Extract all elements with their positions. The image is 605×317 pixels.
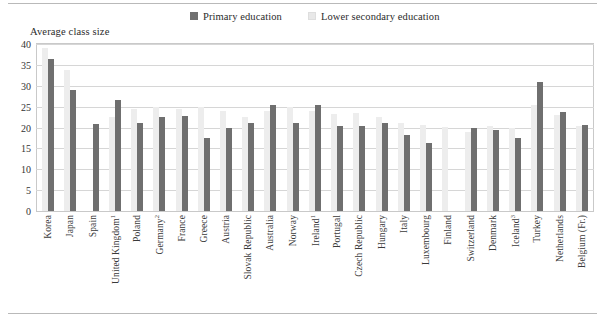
y-tick-40: 40 (21, 39, 31, 50)
bar-primary (48, 59, 54, 211)
bar-group (282, 44, 304, 211)
legend-swatch-lower-icon (308, 12, 316, 20)
bar-primary (182, 116, 188, 211)
bar-primary (270, 105, 276, 211)
x-label-cell: Poland (126, 213, 148, 313)
x-label-cell: Belgium (Fr.) (571, 213, 593, 313)
x-axis-label: Netherlands (555, 215, 565, 262)
bar-group (393, 44, 415, 211)
x-label-cell: Austria (215, 213, 237, 313)
bar-primary (248, 123, 254, 212)
x-axis-label: Austria (221, 215, 231, 244)
x-axis-label: France (177, 215, 187, 241)
x-label-cell: Denmark (482, 213, 504, 313)
bar-group (348, 44, 370, 211)
bar-group (259, 44, 281, 211)
bar-group (37, 44, 59, 211)
bar-primary (337, 126, 343, 211)
x-label-cell: Japan (59, 213, 81, 313)
bar-primary (493, 130, 499, 211)
bar-lower-secondary (442, 127, 448, 211)
bar-primary (293, 123, 299, 211)
x-axis-category-labels: KoreaJapanSpainUnited Kingdom1PolandGerm… (37, 213, 593, 313)
x-label-cell: Hungary (371, 213, 393, 313)
y-tick-10: 10 (21, 164, 31, 175)
x-axis-label: Turkey (532, 215, 542, 243)
x-label-cell: Spain (81, 213, 103, 313)
legend-label-lower: Lower secondary education (321, 11, 440, 22)
y-tick-5: 5 (26, 185, 31, 196)
bar-primary (382, 123, 388, 211)
x-label-cell: Czech Republic (348, 213, 370, 313)
legend-item-primary-education: Primary education (190, 11, 282, 22)
top-divider (8, 3, 597, 4)
x-axis-label: Luxembourg (421, 215, 431, 265)
bottom-divider (8, 313, 597, 314)
bar-group (326, 44, 348, 211)
bar-group (504, 44, 526, 211)
y-tick-30: 30 (21, 80, 31, 91)
bar-primary (204, 138, 210, 211)
bar-group (104, 44, 126, 211)
x-axis-label: Belgium (Fr.) (577, 215, 587, 268)
bar-group (304, 44, 326, 211)
bar-groups (37, 44, 593, 211)
bar-group (215, 44, 237, 211)
y-tick-25: 25 (21, 101, 31, 112)
footnote-marker: 1 (109, 215, 116, 218)
legend-item-lower-secondary-education: Lower secondary education (308, 11, 440, 22)
bar-group (59, 44, 81, 211)
bar-group (237, 44, 259, 211)
legend-label-primary: Primary education (203, 11, 282, 22)
bar-group (81, 44, 103, 211)
y-axis-tick-labels: 0510152025303540 (0, 43, 34, 212)
bar-primary (560, 112, 566, 211)
chart-legend: Primary education Lower secondary educat… (190, 8, 490, 24)
bar-group (371, 44, 393, 211)
x-axis-label: Poland (132, 215, 142, 242)
x-label-cell: Luxembourg (415, 213, 437, 313)
x-axis-label: Korea (43, 215, 53, 239)
bar-primary (515, 138, 521, 211)
bar-primary (159, 117, 165, 211)
x-label-cell: Switzerland (459, 213, 481, 313)
bar-primary (582, 125, 588, 211)
y-axis-title: Average class size (30, 26, 109, 37)
x-label-cell: Netherlands (548, 213, 570, 313)
x-label-cell: Iceland3 (504, 213, 526, 313)
y-tick-15: 15 (21, 143, 31, 154)
x-label-cell: Portugal (326, 213, 348, 313)
x-axis-label: Czech Republic (354, 215, 364, 277)
bar-group (548, 44, 570, 211)
bar-group (126, 44, 148, 211)
bar-group (459, 44, 481, 211)
bar-primary (359, 126, 365, 211)
y-tick-0: 0 (26, 206, 31, 217)
x-axis-label: Hungary (377, 215, 387, 249)
plot-area (36, 43, 594, 212)
bar-primary (226, 128, 232, 212)
x-label-cell: Germany2 (148, 213, 170, 313)
footnote-marker: 1 (309, 215, 316, 218)
bar-group (148, 44, 170, 211)
x-axis-label: Switzerland (466, 215, 476, 261)
bar-primary (70, 90, 76, 211)
x-label-cell: United Kingdom1 (104, 213, 126, 313)
x-axis-label: Finland (443, 215, 453, 245)
x-label-cell: Slovak Republic (237, 213, 259, 313)
bar-group (482, 44, 504, 211)
x-axis-label: United Kingdom1 (109, 215, 121, 284)
bar-primary (537, 82, 543, 211)
chart-container: Primary education Lower secondary educat… (0, 0, 605, 317)
x-axis-label: Denmark (488, 215, 498, 251)
x-axis-label: Japan (65, 215, 75, 237)
legend-swatch-primary-icon (190, 12, 198, 20)
bar-primary (315, 105, 321, 211)
bar-group (193, 44, 215, 211)
x-axis-label: Germany2 (153, 215, 165, 254)
x-label-cell: Finland (437, 213, 459, 313)
y-tick-35: 35 (21, 59, 31, 70)
bar-primary (93, 124, 99, 211)
x-label-cell: Ireland1 (304, 213, 326, 313)
bar-primary (115, 100, 121, 211)
